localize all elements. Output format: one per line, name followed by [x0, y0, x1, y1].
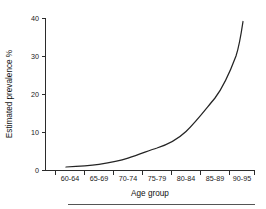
- x-tick-label-65-69: 65-69: [90, 174, 108, 183]
- y-axis-title: Estimated prevalence %: [5, 50, 14, 138]
- x-tick-label-80-84: 80-84: [177, 174, 195, 183]
- x-tick-label-90-95: 90-95: [233, 174, 251, 183]
- prevalence-curve: [66, 22, 243, 168]
- y-tick-label-30: 30: [31, 52, 39, 61]
- x-axis-title: Age group: [131, 189, 169, 198]
- prevalence-by-age-line-chart: Estimated prevalence % 0 10 20 30 40 60-…: [0, 0, 266, 209]
- chart-figure: Estimated prevalence % 0 10 20 30 40 60-…: [0, 0, 266, 209]
- y-tick-label-10: 10: [31, 128, 39, 137]
- y-tick-label-40: 40: [31, 14, 39, 23]
- y-tick-label-0: 0: [35, 166, 39, 175]
- x-tick-label-70-74: 70-74: [119, 174, 137, 183]
- x-tick-label-60-64: 60-64: [61, 174, 79, 183]
- x-tick-label-75-79: 75-79: [148, 174, 166, 183]
- x-tick-label-85-89: 85-89: [206, 174, 224, 183]
- y-tick-label-20: 20: [31, 90, 39, 99]
